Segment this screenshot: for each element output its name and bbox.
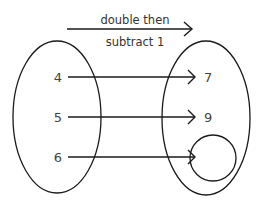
rule-line-1: double then: [100, 13, 169, 27]
mapping-arrow-2: [68, 110, 195, 124]
rule-line-2: subtract 1: [106, 35, 165, 49]
answer-circle[interactable]: [190, 135, 236, 181]
mapping-arrow-3: [68, 150, 195, 164]
input-value-4: 4: [54, 70, 62, 85]
mapping-arrow-1: [68, 70, 195, 84]
input-value-6: 6: [54, 150, 62, 165]
mapping-diagram: double then subtract 1 4 5 6 7 9: [0, 0, 267, 210]
output-value-7: 7: [204, 70, 212, 85]
input-value-5: 5: [54, 110, 62, 125]
output-value-9: 9: [204, 110, 212, 125]
